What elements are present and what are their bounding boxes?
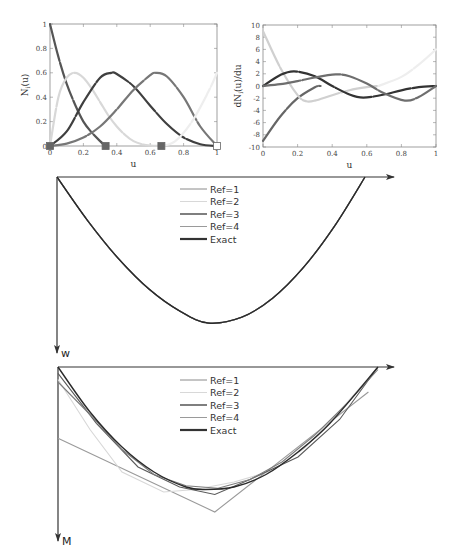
y-tick-label: -10 (249, 144, 260, 152)
x-tick-label: 0.6 (145, 149, 157, 157)
legend-label: Ref=2 (210, 387, 239, 398)
plot-frame (263, 25, 436, 147)
legend-label: Ref=4 (210, 221, 239, 232)
deflection-diagram: wRef=1Ref=2Ref=3Ref=4Exact (54, 174, 395, 360)
y-tick-label: -6 (253, 119, 260, 127)
x-tick-label: 0.6 (361, 150, 373, 158)
legend: Ref=1Ref=2Ref=3Ref=4Exact (180, 375, 239, 436)
knot-marker (47, 143, 54, 150)
legend-label: Ref=1 (210, 375, 239, 386)
x-axis-label: u (347, 160, 353, 170)
y-tick-label: 6 (256, 46, 261, 54)
x-tick-label: 0.4 (327, 150, 339, 158)
y-tick-label: 0.6 (36, 69, 48, 77)
y-tick-label: 0.4 (36, 94, 48, 102)
curve-dN2 (263, 31, 378, 102)
curve-N4 (50, 73, 217, 146)
legend-label: Ref=2 (210, 196, 239, 207)
x-axis-label: u (131, 159, 137, 169)
legend: Ref=1Ref=2Ref=3Ref=4Exact (180, 184, 239, 245)
moment-diagram: MRef=1Ref=2Ref=3Ref=4Exact (55, 364, 395, 548)
curve-dN1 (263, 86, 321, 141)
y-axis-label: M (62, 535, 72, 548)
legend-label: Exact (210, 425, 237, 436)
x-tick-label: 0.2 (292, 150, 303, 158)
legend-label: Ref=4 (210, 412, 239, 423)
y-tick-label: 1 (43, 21, 47, 29)
y-tick-label: -2 (253, 95, 260, 103)
basis-functions-plot: 00.20.40.60.8100.20.40.60.81uNi(u) (20, 21, 221, 170)
y-tick-label: -8 (253, 131, 260, 139)
x-tick-label: 0.8 (396, 150, 407, 158)
x-tick-label: 0.2 (78, 149, 89, 157)
y-tick-label: 0 (256, 83, 260, 91)
y-tick-label: 2 (256, 70, 260, 78)
y-tick-label: 4 (256, 58, 261, 66)
y-tick-label: 10 (251, 22, 260, 30)
legend-label: Ref=3 (210, 400, 239, 411)
figure-canvas: 00.20.40.60.8100.20.40.60.81uNi(u) 00.20… (0, 0, 457, 560)
y-axis-label: w (61, 347, 70, 360)
x-tick-label: 0.4 (111, 149, 123, 157)
curve-N3 (50, 72, 217, 146)
x-tick-label: 0.8 (178, 149, 189, 157)
legend-label: Ref=3 (210, 209, 239, 220)
y-tick-label: -4 (253, 107, 260, 115)
x-tick-label: 0 (48, 149, 52, 157)
curve-dN5 (378, 49, 436, 86)
y-tick-label: 0.8 (36, 45, 47, 53)
x-tick-label: 0 (261, 150, 265, 158)
curve-N5 (161, 73, 217, 146)
y-tick-label: 0.2 (36, 118, 47, 126)
y-axis-label: Ni(u) (20, 74, 31, 97)
y-tick-label: 8 (256, 34, 260, 42)
knot-marker (102, 143, 109, 150)
legend-label: Ref=1 (210, 184, 239, 195)
knot-marker (214, 143, 221, 150)
x-tick-label: 1 (434, 150, 438, 158)
y-axis-label: dNi(u)/du (233, 64, 244, 107)
legend-label: Exact (210, 234, 237, 245)
knot-marker (158, 143, 165, 150)
basis-derivatives-plot: 00.20.40.60.81-10-8-6-4-20246810udNi(u)/… (233, 22, 438, 171)
x-tick-label: 1 (215, 149, 219, 157)
